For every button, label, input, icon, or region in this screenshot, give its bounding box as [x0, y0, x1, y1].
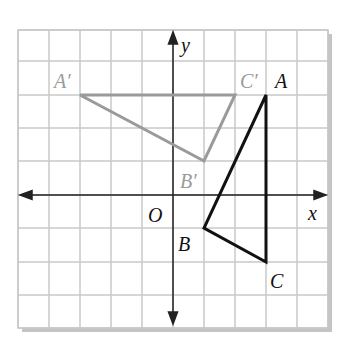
coordinate-plane-diagram: y x O A B C A′ B′ C′ [0, 0, 345, 362]
y-axis-label: y [179, 34, 190, 57]
origin-label: O [148, 204, 162, 226]
vertex-label-b: B [178, 233, 190, 255]
vertex-label-c: C [270, 270, 284, 292]
vertex-label-b-prime: B′ [180, 170, 197, 192]
vertex-label-a: A [273, 70, 288, 92]
vertex-label-c-prime: C′ [240, 70, 258, 92]
vertex-label-a-prime: A′ [52, 70, 71, 92]
x-axis-label: x [307, 202, 317, 224]
